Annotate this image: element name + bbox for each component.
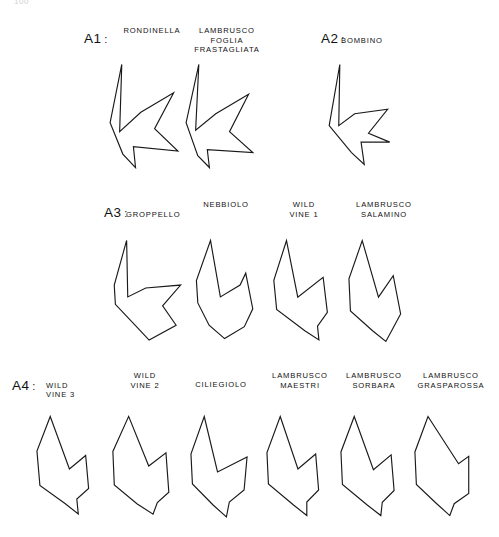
leaf-outline-wild-vine-2 (110, 412, 176, 520)
leaf-outline-rondinella (108, 60, 180, 172)
leaf-path-lambrusco-grasparossa (415, 416, 469, 515)
leaf-label-lambrusco-salamino: LAMBRUSCO SALAMINO (340, 200, 428, 219)
leaf-svg-lambrusco-grasparossa (412, 412, 476, 520)
leaf-path-lambrusco-salamino (349, 241, 401, 342)
leaf-outline-lambrusco-foglia-frastagliata (184, 60, 256, 172)
leaf-svg-nebbiolo (195, 236, 257, 346)
leaf-label-wild-vine-3-text: WILD VINE 3 (46, 381, 75, 400)
leaf-outline-ciliegiolo (188, 412, 250, 520)
leaf-path-bombino (329, 64, 390, 164)
leaf-svg-ciliegiolo (188, 412, 250, 520)
leaf-label-lambrusco-maestri: LAMBRUSCO MAESTRI (258, 371, 342, 390)
group-tag-a4-separator: : (29, 380, 38, 392)
leaf-label-wild-vine-2: WILD VINE 2 (112, 371, 178, 390)
figure-root: 100 A1: RONDINELLA LAMBRUSCO FOGLIA FRAS… (0, 0, 499, 537)
leaf-outline-wild-vine-3 (34, 412, 96, 520)
leaf-path-wild-vine-3 (37, 417, 89, 515)
leaf-label-groppello-text: GROPPELLO (126, 210, 181, 219)
leaf-label-wild-vine-1: WILD VINE 1 (265, 200, 343, 219)
leaf-path-lambrusco-sorbara (341, 416, 394, 515)
leaf-label-lambrusco-foglia-frastagliata: LAMBRUSCO FOGLIA FRASTAGLIATA (180, 26, 274, 55)
leaf-outline-nebbiolo (195, 236, 257, 346)
leaf-svg-lambrusco-sorbara (338, 412, 400, 520)
leaf-path-rondinella (110, 64, 178, 167)
leaf-path-ciliegiolo (191, 417, 247, 518)
group-tag-a4: A4: (12, 378, 39, 393)
leaf-label-lambrusco-grasparossa: LAMBRUSCO GRASPAROSSA (404, 371, 498, 390)
leaf-svg-lambrusco-maestri (264, 412, 326, 520)
leaf-path-groppello (114, 240, 180, 340)
group-tag-a3-text: A3 (104, 205, 121, 220)
leaf-label-bombino-text: BOMBINO (341, 36, 383, 45)
leaf-path-nebbiolo (196, 240, 252, 338)
leaf-svg-lambrusco-salamino (346, 236, 408, 346)
leaf-svg-lambrusco-foglia-frastagliata (184, 60, 256, 172)
leaf-svg-wild-vine-3 (34, 412, 96, 520)
leaf-outline-lambrusco-grasparossa (412, 412, 476, 520)
group-tag-a4-text: A4 (12, 378, 29, 393)
leaf-svg-wild-vine-2 (110, 412, 176, 520)
group-tag-a1-text: A1 (84, 31, 101, 46)
page-number: 100 (14, 0, 29, 6)
leaf-outline-lambrusco-maestri (264, 412, 326, 520)
leaf-path-lambrusco-maestri (267, 417, 319, 516)
leaf-label-bombino: BOMBINO (341, 26, 431, 45)
leaf-svg-rondinella (108, 60, 180, 172)
leaf-path-lambrusco-foglia-frastagliata (186, 64, 253, 167)
leaf-outline-wild-vine-1 (271, 236, 333, 346)
leaf-outline-bombino (326, 60, 394, 172)
leaf-outline-lambrusco-sorbara (338, 412, 400, 520)
leaf-label-ciliegiolo: CILIEGIOLO (182, 371, 260, 390)
leaf-path-wild-vine-2 (113, 416, 169, 514)
leaf-label-nebbiolo: NEBBIOLO (186, 200, 266, 210)
leaf-svg-wild-vine-1 (271, 236, 333, 346)
leaf-outline-lambrusco-salamino (346, 236, 408, 346)
leaf-svg-bombino (326, 60, 394, 172)
leaf-outline-groppello (112, 236, 184, 346)
leaf-svg-groppello (112, 236, 184, 346)
leaf-path-wild-vine-1 (274, 241, 328, 340)
group-tag-a2-text: A2 (321, 31, 338, 46)
leaf-label-wild-vine-3: WILD VINE 3 (46, 371, 108, 400)
